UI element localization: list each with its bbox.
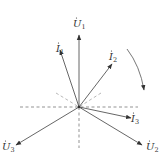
label-i3: I3 [130, 113, 139, 126]
phasor-dot [5, 140, 6, 141]
diagonal-reference-left [56, 93, 79, 107]
label-u1: U1 [73, 18, 86, 31]
label-i2: I2 [108, 51, 117, 64]
vector-i3 [79, 107, 131, 118]
vector-u3 [16, 107, 79, 145]
phasor-dot [149, 140, 150, 141]
phasor-dot [111, 50, 112, 51]
label-i1: I1 [55, 43, 64, 56]
phasor-dot [133, 112, 134, 113]
phasor-diagram: U1 I1 I2 I3 U2 U3 [0, 0, 166, 168]
label-u3: U3 [2, 141, 15, 154]
rotation-arrow-icon [127, 49, 144, 90]
vector-i2 [79, 64, 112, 107]
phasor-dot [58, 42, 59, 43]
diagonal-reference-right [79, 93, 101, 107]
origin-point [78, 106, 81, 109]
phasor-dot [76, 17, 77, 18]
label-u2: U2 [146, 141, 159, 154]
vector-i1 [60, 50, 79, 107]
